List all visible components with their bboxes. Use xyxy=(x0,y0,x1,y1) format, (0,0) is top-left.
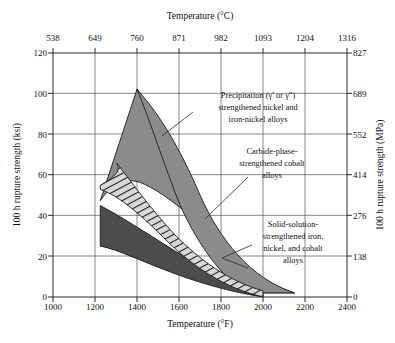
annotation-line: alloys xyxy=(262,171,282,180)
annotation-carbide: Carbide-phase- strengthened cobalt alloy… xyxy=(239,147,305,180)
annotation-precipitation: Precipitation (γ′ or γ″) strengthened ni… xyxy=(218,91,298,124)
right-tick-label: 827 xyxy=(353,48,367,58)
bottom-tick-label: 1200 xyxy=(86,302,105,312)
right-tick-label: 552 xyxy=(353,130,367,140)
right-tick-label: 0 xyxy=(353,292,358,302)
left-tick-label: 80 xyxy=(38,130,48,140)
annotation-solid-solution: Solid-solution- strengthened iron, nicke… xyxy=(263,220,324,265)
right-axis-title: 100 h rupture strength (MPa) xyxy=(375,120,386,231)
bottom-tick-label: 2400 xyxy=(338,302,357,312)
left-axis-tick-labels: 120 100 80 60 40 20 0 xyxy=(34,48,48,302)
right-tick-label: 414 xyxy=(353,170,367,180)
figure-caption xyxy=(0,333,395,343)
right-tick-label: 276 xyxy=(353,211,367,221)
left-tick-label: 40 xyxy=(38,211,48,221)
left-tick-label: 100 xyxy=(34,89,48,99)
annotation-line: strengthened nickel and xyxy=(218,103,298,112)
annotation-line: iron-nickel alloys xyxy=(229,115,288,124)
top-tick-label: 1204 xyxy=(296,33,315,43)
annotation-leader-carbide xyxy=(205,177,248,219)
annotation-line: strengthened iron, xyxy=(263,232,323,241)
left-tick-label: 120 xyxy=(34,48,48,58)
top-tick-label: 871 xyxy=(172,33,186,43)
top-tick-label: 760 xyxy=(130,33,144,43)
left-tick-label: 20 xyxy=(38,252,48,262)
annotation-line: Carbide-phase- xyxy=(246,147,297,156)
left-tick-label: 0 xyxy=(43,292,48,302)
annotation-line: strengthened cobalt xyxy=(239,159,305,168)
bottom-tick-label: 1600 xyxy=(170,302,189,312)
top-tick-label: 538 xyxy=(46,33,60,43)
bottom-tick-label: 1800 xyxy=(212,302,231,312)
annotation-line: nickel, and cobalt xyxy=(263,244,323,253)
top-axis-title: Temperature (°C) xyxy=(167,11,234,22)
bottom-tick-label: 1000 xyxy=(44,302,63,312)
bottom-tick-label: 1400 xyxy=(128,302,147,312)
top-tick-label: 1316 xyxy=(338,33,357,43)
bottom-tick-label: 2200 xyxy=(296,302,315,312)
top-tick-label: 1093 xyxy=(254,33,273,43)
bottom-tick-label: 2000 xyxy=(254,302,273,312)
top-axis-tick-labels: 538 649 760 871 982 1093 1204 1316 xyxy=(46,33,356,43)
left-axis-title: 100 h rupture strength (ksi) xyxy=(12,123,23,227)
bottom-axis-tick-labels: 1000 1200 1400 1600 1800 2000 2200 2400 xyxy=(44,302,357,312)
top-tick-label: 982 xyxy=(214,33,228,43)
annotation-line: alloys xyxy=(283,256,303,265)
right-axis-tick-labels: 827 689 552 414 276 138 0 xyxy=(353,48,367,302)
left-tick-label: 60 xyxy=(38,170,48,180)
annotation-line: Solid-solution- xyxy=(268,220,318,229)
figure-container: Temperature (°C) 538 649 760 871 982 109… xyxy=(0,0,395,343)
annotation-leader-precipitation xyxy=(162,112,193,136)
bottom-axis-title: Temperature (°F) xyxy=(167,319,233,330)
annotation-line: Precipitation (γ′ or γ″) xyxy=(221,91,296,100)
right-tick-label: 689 xyxy=(353,89,367,99)
right-tick-label: 138 xyxy=(353,252,367,262)
top-tick-label: 649 xyxy=(88,33,102,43)
rupture-strength-chart: Temperature (°C) 538 649 760 871 982 109… xyxy=(0,0,395,343)
